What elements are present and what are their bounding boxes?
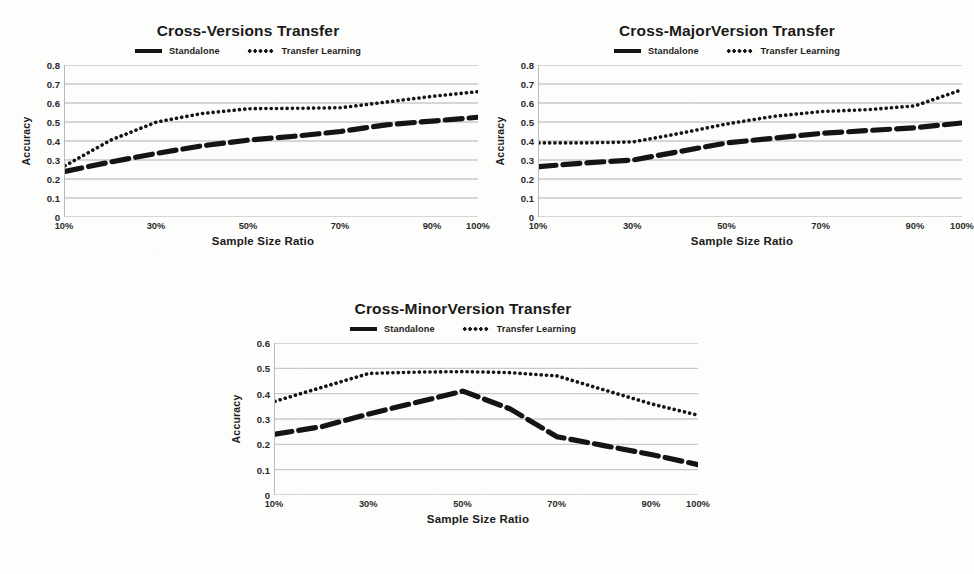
- x-axis-tick-label: 70%: [331, 221, 350, 231]
- data-series-line: [539, 90, 962, 143]
- solid-line-swatch-icon: [614, 49, 641, 53]
- solid-line-swatch-icon: [135, 49, 162, 53]
- plot-svg: [65, 65, 478, 217]
- y-axis-tick-label: 0.1: [47, 193, 60, 204]
- chart-panel-cross-majorversion: Cross-MajorVersion Transfer Standalone T…: [492, 22, 962, 292]
- x-axis-tick-label: 100%: [686, 499, 710, 509]
- plot-wrapper: Accuracy 00.10.20.30.40.50.60.70.8: [18, 65, 478, 217]
- plot-svg: [539, 65, 962, 217]
- x-axis-tick-label: 10%: [55, 221, 74, 231]
- legend-entry-standalone: Standalone: [135, 46, 220, 56]
- y-axis-tick-label: 0.1: [257, 464, 270, 475]
- y-axis-label-text: Accuracy: [20, 117, 32, 166]
- plot-wrapper: Accuracy 00.10.20.30.40.50.6: [228, 343, 698, 495]
- x-axis-tick-label: 50%: [717, 221, 736, 231]
- dotted-line-swatch-icon: [461, 327, 490, 331]
- x-axis-tick-label: 50%: [239, 221, 258, 231]
- y-axis-tick-label: 0.5: [521, 117, 534, 128]
- x-axis-tick-label: 30%: [623, 221, 642, 231]
- plot-svg: [275, 343, 698, 495]
- y-axis-tick-label: 0.1: [521, 193, 534, 204]
- y-axis-tick-label: 0.3: [257, 414, 270, 425]
- y-axis-tick-label: 0.8: [521, 60, 534, 71]
- y-axis-tick-label: 0.4: [521, 136, 534, 147]
- y-axis-ticks: 00.10.20.30.40.50.60.70.8: [34, 65, 64, 217]
- y-axis-label-text: Accuracy: [230, 395, 242, 444]
- legend-entry-transfer-learning: Transfer Learning: [461, 324, 576, 334]
- plot-area: [64, 65, 478, 217]
- x-axis-tick-label: 90%: [906, 221, 925, 231]
- chart-panel-cross-minorversion: Cross-MinorVersion Transfer Standalone T…: [228, 300, 698, 568]
- x-axis-ticks: 10%30%50%70%90%100%: [274, 495, 698, 512]
- chart-panel-cross-versions: Cross-Versions Transfer Standalone Trans…: [18, 22, 478, 292]
- legend-label-transfer-learning: Transfer Learning: [282, 46, 361, 56]
- chart-title: Cross-MajorVersion Transfer: [492, 22, 962, 40]
- legend-entry-standalone: Standalone: [350, 324, 435, 334]
- y-axis-tick-label: 0.6: [521, 98, 534, 109]
- chart-legend: Standalone Transfer Learning: [492, 46, 962, 56]
- x-axis-tick-label: 30%: [147, 221, 166, 231]
- x-axis-tick-label: 100%: [950, 221, 974, 231]
- y-axis-tick-label: 0.5: [257, 363, 270, 374]
- chart-title: Cross-Versions Transfer: [18, 22, 478, 40]
- x-axis-tick-label: 70%: [811, 221, 830, 231]
- y-axis-tick-label: 0.6: [257, 338, 270, 349]
- legend-label-standalone: Standalone: [648, 46, 699, 56]
- x-axis-tick-label: 10%: [529, 221, 548, 231]
- x-axis-label: Sample Size Ratio: [18, 235, 478, 247]
- y-axis-tick-label: 0.5: [47, 117, 60, 128]
- y-axis-tick-label: 0.4: [257, 388, 270, 399]
- plot-wrapper: Accuracy 00.10.20.30.40.50.60.70.8: [492, 65, 962, 217]
- y-axis-tick-label: 0.3: [47, 155, 60, 166]
- x-axis-tick-label: 50%: [453, 499, 472, 509]
- x-axis-tick-label: 70%: [547, 499, 566, 509]
- x-axis-tick-label: 90%: [423, 221, 442, 231]
- y-axis-ticks: 00.10.20.30.40.50.6: [244, 343, 274, 495]
- y-axis-tick-label: 0.6: [47, 98, 60, 109]
- x-axis-label: Sample Size Ratio: [492, 235, 962, 247]
- legend-label-transfer-learning: Transfer Learning: [497, 324, 576, 334]
- legend-entry-transfer-learning: Transfer Learning: [246, 46, 361, 56]
- chart-title: Cross-MinorVersion Transfer: [228, 300, 698, 318]
- x-axis-tick-label: 90%: [642, 499, 661, 509]
- y-axis-label: Accuracy: [18, 65, 34, 217]
- x-axis-ticks: 10%30%50%70%90%100%: [538, 217, 962, 234]
- x-axis-tick-label: 30%: [359, 499, 378, 509]
- y-axis-tick-label: 0.7: [47, 79, 60, 90]
- dotted-line-swatch-icon: [725, 49, 754, 53]
- y-axis-tick-label: 0.2: [257, 439, 270, 450]
- legend-entry-transfer-learning: Transfer Learning: [725, 46, 840, 56]
- x-axis-ticks: 10%30%50%70%90%100%: [64, 217, 478, 234]
- legend-label-standalone: Standalone: [384, 324, 435, 334]
- y-axis-ticks: 00.10.20.30.40.50.60.70.8: [508, 65, 538, 217]
- data-series-line: [275, 391, 698, 464]
- chart-legend: Standalone Transfer Learning: [228, 324, 698, 334]
- y-axis-label: Accuracy: [492, 65, 508, 217]
- y-axis-tick-label: 0.7: [521, 79, 534, 90]
- y-axis-tick-label: 0.4: [47, 136, 60, 147]
- x-axis-tick-label: 10%: [265, 499, 284, 509]
- solid-line-swatch-icon: [350, 327, 377, 331]
- legend-entry-standalone: Standalone: [614, 46, 699, 56]
- legend-label-standalone: Standalone: [169, 46, 220, 56]
- data-series-line: [65, 117, 478, 171]
- y-axis-label-text: Accuracy: [494, 117, 506, 166]
- legend-label-transfer-learning: Transfer Learning: [761, 46, 840, 56]
- x-axis-tick-label: 100%: [466, 221, 490, 231]
- plot-area: [538, 65, 962, 217]
- dotted-line-swatch-icon: [246, 49, 275, 53]
- y-axis-tick-label: 0.2: [47, 174, 60, 185]
- plot-area: [274, 343, 698, 495]
- x-axis-label: Sample Size Ratio: [228, 513, 698, 525]
- y-axis-label: Accuracy: [228, 343, 244, 495]
- y-axis-tick-label: 0.8: [47, 60, 60, 71]
- chart-legend: Standalone Transfer Learning: [18, 46, 478, 56]
- y-axis-tick-label: 0.2: [521, 174, 534, 185]
- y-axis-tick-label: 0.3: [521, 155, 534, 166]
